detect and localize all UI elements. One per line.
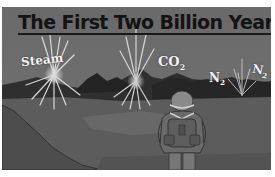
label-n2-left: N2 (209, 71, 225, 87)
leg-left (169, 153, 181, 170)
label-n2-left-base: N (209, 71, 220, 85)
label-n2-right: N2 (251, 62, 270, 81)
label-co2-subscript: 2 (180, 63, 185, 72)
figure-title: The First Two Billion Years (18, 11, 271, 35)
label-n2-left-subscript: 2 (220, 78, 225, 87)
illustration-frame: The First Two Billion Years Steam CO2 N2… (2, 7, 271, 170)
pocket-left (164, 135, 174, 145)
pocket-right (190, 135, 200, 145)
pack-strap (179, 125, 185, 135)
label-co2: CO2 (158, 54, 185, 72)
label-co2-base: CO (158, 54, 180, 69)
leg-right (183, 153, 195, 170)
